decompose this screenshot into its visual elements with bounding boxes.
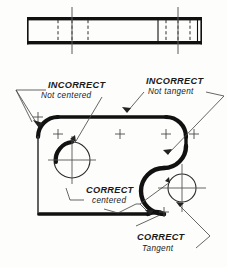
center-mark-tl [53, 129, 63, 139]
leader-correct-centered-bracket [66, 188, 84, 200]
leader-correct-centered-a [140, 182, 170, 204]
arrowhead-tangent-right [163, 149, 172, 155]
label-incorrect-not-tangent-line2: Not tangent [148, 87, 194, 96]
arrowhead-tangent-top [122, 107, 131, 113]
label-correct-centered-line2: centered [92, 196, 126, 205]
arc-reverse-curve-upper [164, 146, 186, 168]
leader-correct-centered-c [104, 204, 136, 213]
edge-view-right-end [200, 17, 202, 44]
feature-hole-not-centered [48, 136, 96, 184]
center-mark-tm [115, 129, 125, 139]
arc-boss-outer [141, 168, 164, 214]
label-incorrect-not-tangent-line1: INCORRECT [146, 76, 204, 86]
center-mark-tr [161, 129, 171, 139]
leader-not-centered-hole [76, 97, 102, 141]
leader-lines [16, 90, 224, 248]
leader-correct-tangent-alt [136, 215, 160, 226]
label-correct-centered-line1: CORRECT [86, 185, 135, 195]
arc-not-centered-emphasis [56, 142, 72, 162]
label-incorrect-not-centered-line1: INCORRECT [48, 80, 106, 90]
leader-not-tangent-right [168, 92, 224, 154]
edge-view-top-line [27, 17, 202, 20]
edge-view-left-end [27, 17, 29, 44]
arrowhead-tangent-low [176, 202, 184, 207]
label-incorrect-not-centered-line2: Not centered [41, 91, 92, 100]
annotation-labels: INCORRECT Not centered INCORRECT Not tan… [41, 76, 204, 253]
arrowhead-centered-a [165, 177, 170, 183]
edge-view-bar [27, 7, 202, 54]
label-correct-tangent-line1: CORRECT [137, 232, 186, 242]
edge-view-bottom-line [27, 41, 202, 44]
label-correct-tangent-line2: Tangent [142, 244, 174, 253]
drawing-sheet: INCORRECT Not centered INCORRECT Not tan… [0, 0, 227, 267]
